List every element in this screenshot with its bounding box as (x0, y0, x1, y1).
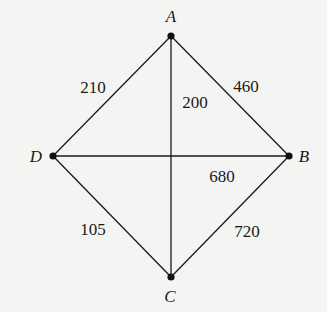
node-label-D: D (29, 147, 43, 166)
node-A (167, 32, 174, 39)
node-C (167, 273, 174, 280)
node-label-A: A (165, 7, 177, 26)
graph-svg: 210200460680105720ABCD (0, 0, 327, 312)
edge-DC (53, 156, 171, 277)
node-label-B: B (299, 147, 310, 166)
edge-weight-AB: 460 (233, 77, 259, 96)
edge-weight-AD: 210 (80, 78, 106, 97)
edge-weight-BC: 720 (234, 222, 260, 241)
graph-diagram: 210200460680105720ABCD (0, 0, 327, 312)
edge-AD (53, 36, 171, 156)
edge-weight-DC: 105 (80, 220, 106, 239)
edge-weight-AC: 200 (182, 93, 208, 112)
node-D (49, 152, 56, 159)
node-B (285, 152, 292, 159)
node-label-C: C (164, 287, 176, 306)
edge-weight-DB: 680 (209, 167, 235, 186)
